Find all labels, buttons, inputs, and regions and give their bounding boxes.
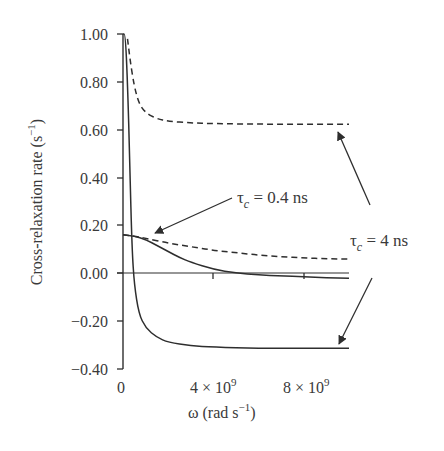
y-ticks [117, 34, 123, 369]
series-line-0 [128, 39, 350, 125]
x-axis-title: ω (rad s−1) [188, 401, 256, 422]
x-tick-label-8e9: 8 × 109 [283, 376, 330, 396]
y-tick-label: 0.20 [80, 217, 108, 234]
series-line-1 [123, 34, 349, 348]
y-tick-labels: 1.00 0.80 0.60 0.40 0.20 0.00 −0.20 −0.4… [71, 26, 108, 378]
y-tick-label: 0.60 [80, 122, 108, 139]
arrow-0.4ns [155, 198, 232, 233]
arrow-4ns-upper [338, 132, 370, 205]
x-tick-label-4e9: 4 × 109 [190, 376, 237, 396]
curves [123, 34, 349, 348]
y-tick-label: 1.00 [80, 26, 108, 43]
y-tick-label: 0.00 [80, 265, 108, 282]
y-axis-title: Cross-relaxation rate (s−1) [25, 119, 46, 285]
series-line-2 [123, 235, 349, 259]
arrow-4ns-lower [339, 278, 372, 344]
y-tick-label: 0.80 [80, 74, 108, 91]
x-tick-label-0: 0 [117, 379, 125, 396]
cross-relaxation-chart: 1.00 0.80 0.60 0.40 0.20 0.00 −0.20 −0.4… [0, 0, 444, 451]
annotation-tau-0.4ns: τc = 0.4 ns [237, 188, 308, 211]
y-tick-label: 0.40 [80, 170, 108, 187]
y-tick-label: −0.20 [71, 313, 108, 330]
y-tick-label: −0.40 [71, 361, 108, 378]
annotation-tau-4ns: τc = 4 ns [350, 231, 408, 254]
